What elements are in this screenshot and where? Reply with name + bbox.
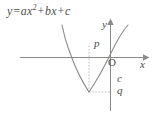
equation-label: y=ax2+bx+c — [7, 5, 71, 17]
equation-rhs: +bx+c — [37, 4, 71, 18]
vertex-guides — [89, 45, 111, 92]
origin-label: O — [108, 57, 116, 68]
y-intercept-label-c: c — [117, 73, 122, 84]
y-axis-arrow-icon — [107, 19, 113, 26]
vertex-x-label-p: p — [94, 38, 100, 49]
equation-lhs: y=ax — [7, 4, 33, 18]
vertex-y-label-q: q — [117, 85, 123, 96]
parabola-diagram-svg — [0, 0, 154, 122]
x-axis — [20, 54, 150, 60]
parabola-figure: y=ax2+bx+c y x O p c q — [0, 0, 154, 122]
y-axis-label: y — [102, 19, 107, 30]
x-axis-label: x — [140, 59, 145, 70]
